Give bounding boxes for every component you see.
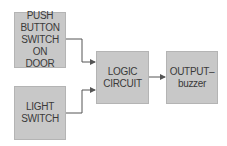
- node-light-switch: LIGHT SWITCH: [14, 86, 66, 140]
- edge-light-switch-to-logic: [66, 90, 95, 113]
- node-label: OUTPUT– buzzer: [170, 66, 215, 90]
- node-label: LOGIC CIRCUIT: [103, 66, 141, 90]
- edge-push-button-to-logic: [66, 39, 95, 62]
- node-logic-circuit: LOGIC CIRCUIT: [96, 51, 149, 104]
- node-push-button-switch: PUSH BUTTON SWITCH ON DOOR: [14, 12, 66, 68]
- node-label: LIGHT SWITCH: [21, 101, 59, 125]
- node-label: PUSH BUTTON SWITCH ON DOOR: [15, 10, 65, 70]
- node-output-buzzer: OUTPUT– buzzer: [166, 51, 218, 104]
